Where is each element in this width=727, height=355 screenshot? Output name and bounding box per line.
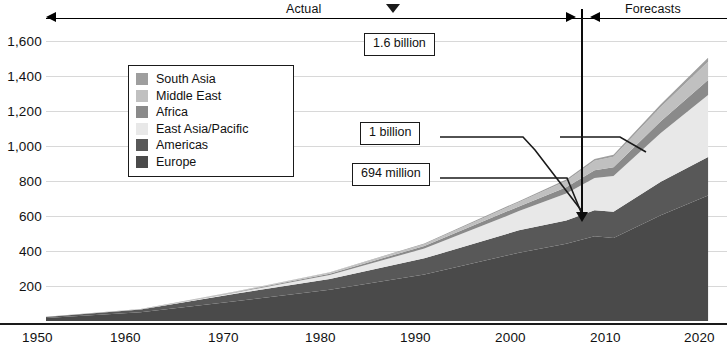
callout-694-million: 694 million bbox=[352, 163, 430, 186]
legend-item-east-asia-pacific: East Asia/Pacific bbox=[136, 121, 286, 138]
x-tick-label: 1990 bbox=[400, 330, 431, 345]
x-tick-label: 1950 bbox=[22, 330, 53, 345]
y-tick-label: 200 bbox=[19, 279, 42, 294]
legend-label: East Asia/Pacific bbox=[156, 123, 248, 136]
period-axis-line bbox=[46, 18, 727, 19]
legend-label: Middle East bbox=[156, 90, 221, 103]
legend-swatch-icon bbox=[136, 139, 148, 151]
period-label-actual: Actual bbox=[286, 2, 321, 16]
x-tick-label: 2020 bbox=[684, 330, 715, 345]
legend-label: Americas bbox=[156, 139, 208, 152]
y-tick-label: 1,000 bbox=[7, 139, 42, 154]
x-tick-label: 1970 bbox=[208, 330, 239, 345]
y-tick-label: 1,200 bbox=[7, 104, 42, 119]
forecast-divider-line bbox=[581, 18, 583, 218]
chart-container: Actual Forecasts 1,600 1,400 1,200 1,000… bbox=[0, 0, 727, 355]
period-label-forecasts: Forecasts bbox=[625, 2, 681, 16]
legend-item-middle-east: Middle East bbox=[136, 88, 286, 105]
actual-arrow-right-icon bbox=[566, 12, 576, 22]
legend-swatch-icon bbox=[136, 106, 148, 118]
y-tick-label: 400 bbox=[19, 244, 42, 259]
y-tick-label: 1,400 bbox=[7, 69, 42, 84]
x-tick-label: 2000 bbox=[495, 330, 526, 345]
x-axis-line bbox=[0, 323, 727, 325]
legend-item-south-asia: South Asia bbox=[136, 71, 286, 88]
callout-1-billion: 1 billion bbox=[360, 122, 420, 145]
legend: South Asia Middle East Africa East Asia/… bbox=[128, 65, 294, 177]
legend-swatch-icon bbox=[136, 156, 148, 168]
y-tick-label: 800 bbox=[19, 174, 42, 189]
y-axis: 1,600 1,400 1,200 1,000 800 600 400 200 bbox=[0, 26, 42, 323]
legend-swatch-icon bbox=[136, 90, 148, 102]
legend-label: South Asia bbox=[156, 73, 216, 86]
legend-swatch-icon bbox=[136, 123, 148, 135]
legend-item-africa: Africa bbox=[136, 104, 286, 121]
actual-arrow-left-icon bbox=[46, 12, 56, 22]
legend-item-americas: Americas bbox=[136, 137, 286, 154]
forecast-arrow-left-icon bbox=[590, 12, 600, 22]
x-tick-label: 1960 bbox=[110, 330, 141, 345]
legend-swatch-icon bbox=[136, 73, 148, 85]
legend-label: Africa bbox=[156, 106, 188, 119]
down-triangle-marker-icon bbox=[386, 4, 400, 13]
y-tick-label: 600 bbox=[19, 209, 42, 224]
period-band: Actual Forecasts bbox=[0, 0, 727, 26]
legend-item-europe: Europe bbox=[136, 154, 286, 171]
x-tick-label: 2010 bbox=[590, 330, 621, 345]
forecast-divider-arrowhead-icon bbox=[576, 212, 588, 222]
callout-16-billion: 1.6 billion bbox=[364, 33, 435, 56]
x-tick-label: 1980 bbox=[305, 330, 336, 345]
y-tick-label: 1,600 bbox=[7, 34, 42, 49]
legend-label: Europe bbox=[156, 156, 196, 169]
